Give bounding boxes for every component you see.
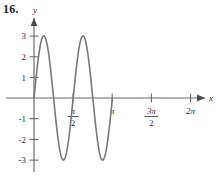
y-tick-label-1: 1: [22, 73, 27, 83]
y-tick-label-neg1: -1: [19, 114, 27, 124]
x-axis-arrow-icon: [197, 95, 205, 102]
fraction-denominator: 2: [149, 118, 153, 128]
x-axis-label: x: [208, 93, 213, 103]
y-tick-label-3: 3: [22, 31, 27, 41]
y-axis-arrow-icon: [31, 18, 38, 26]
x-tick-label-2pi: 2π: [186, 106, 196, 116]
x-tick-label-3pi-over-2: 3π 2: [145, 106, 159, 128]
x-tick-label-pi-over-2: π 2: [68, 106, 79, 128]
fraction-numerator: 3π: [146, 106, 156, 116]
graph-plot: x y 3 2 1 -1 -2 -3 π 2 π: [0, 0, 220, 178]
y-axis-label: y: [32, 5, 37, 15]
figure-container: 16. x y 3 2 1 -1 -2 -3: [0, 0, 220, 178]
y-tick-label-neg3: -3: [19, 155, 27, 165]
y-tick-label-2: 2: [22, 52, 27, 62]
y-tick-label-neg2: -2: [19, 135, 27, 145]
